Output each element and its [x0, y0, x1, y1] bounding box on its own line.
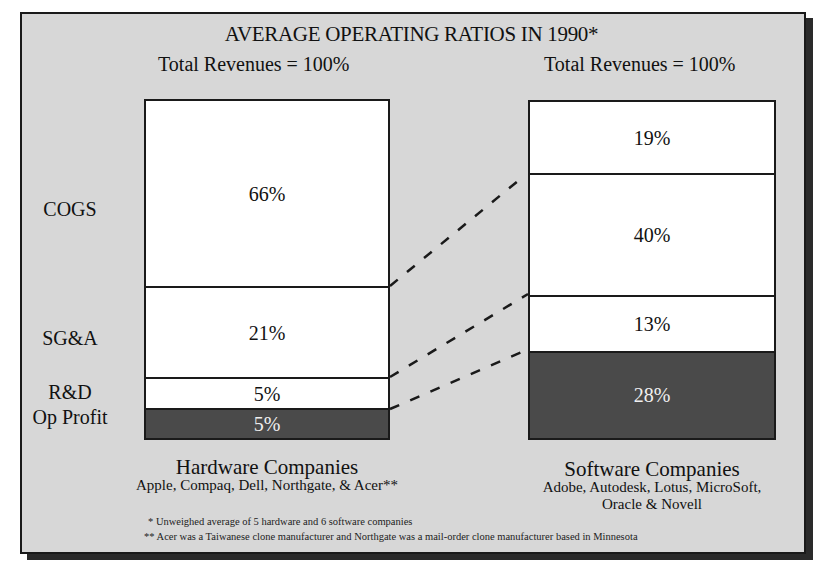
connector-rd-line [390, 352, 522, 409]
software-companies-line1: Adobe, Autodesk, Lotus, MicroSoft, [490, 479, 814, 496]
footnote-2: ** Acer was a Taiwanese clone manufactur… [144, 531, 638, 542]
connector-sga-line [390, 294, 528, 377]
footnote-1: * Unweighed average of 5 hardware and 6 … [148, 516, 412, 527]
connector-cogs-line [390, 176, 524, 286]
software-companies-line2: Oracle & Novell [490, 496, 814, 513]
hardware-companies: Apple, Compaq, Dell, Northgate, & Acer** [100, 477, 434, 494]
